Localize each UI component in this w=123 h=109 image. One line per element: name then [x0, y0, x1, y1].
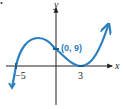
y-axis-label: y: [54, 0, 58, 10]
tick-label-neg5: −5: [15, 71, 26, 81]
x-axis-label: x: [115, 61, 119, 71]
tick-label-3: 3: [78, 71, 83, 81]
polynomial-curve: [12, 26, 108, 87]
intercept-label: (0, 9): [61, 44, 82, 53]
bullet-dot: [1, 2, 3, 4]
graph-canvas: [0, 0, 123, 109]
